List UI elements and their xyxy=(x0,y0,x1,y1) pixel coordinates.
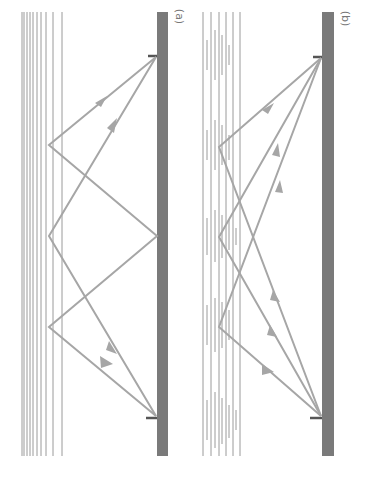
panel-a-layers xyxy=(22,12,62,456)
panel-b-rays xyxy=(219,58,321,416)
panel-b-mirror xyxy=(322,12,334,456)
panel-a-label: (a) xyxy=(173,9,186,24)
panel-a-mirror xyxy=(157,12,168,456)
diagram-canvas xyxy=(0,0,379,477)
panel-b-label: (b) xyxy=(339,11,352,27)
panel-a-arrow-icons xyxy=(95,96,117,368)
